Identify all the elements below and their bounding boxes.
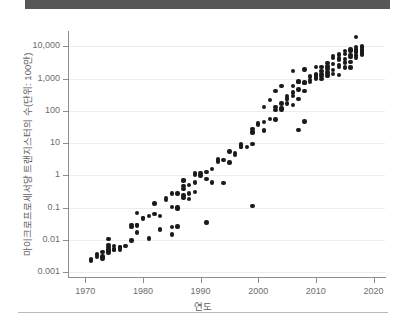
data-point [158, 214, 162, 218]
data-point [118, 248, 122, 252]
data-point [291, 69, 295, 73]
data-point [331, 62, 335, 66]
data-point [221, 181, 225, 185]
data-point [273, 117, 277, 121]
scatter-plot-area [68, 31, 385, 277]
data-point [164, 198, 168, 202]
y-axis-tick-mark [63, 240, 68, 241]
data-point [291, 84, 295, 88]
data-point [337, 65, 341, 69]
x-axis-tick-label: 2010 [296, 286, 336, 296]
data-point [147, 236, 151, 240]
data-point [302, 89, 306, 93]
data-point [239, 144, 243, 148]
data-point [273, 89, 277, 93]
data-point [296, 80, 300, 84]
data-point [354, 56, 358, 60]
data-point [296, 128, 300, 132]
data-point [337, 58, 341, 62]
x-axis-tick-mark [316, 278, 317, 283]
data-point [106, 250, 110, 254]
data-point [135, 223, 139, 227]
x-axis-tick-label: 2020 [354, 286, 394, 296]
x-axis-tick-mark [201, 278, 202, 283]
data-point [250, 204, 254, 208]
gridline [68, 272, 385, 273]
data-point [308, 74, 312, 78]
data-point [221, 158, 225, 162]
data-point [268, 98, 272, 102]
data-point [262, 105, 266, 109]
data-point [170, 225, 174, 229]
data-point [314, 76, 318, 80]
data-point [100, 256, 104, 260]
data-point [135, 230, 139, 234]
data-point [348, 60, 352, 64]
gridline [68, 111, 385, 112]
y-axis-tick-mark [63, 175, 68, 176]
data-point [354, 35, 358, 39]
gridline [68, 240, 385, 241]
data-point [170, 191, 174, 195]
y-axis-title: 마이크로프로세서당 트랜지스터의 수(단위: 100만) [22, 40, 33, 270]
data-point [360, 49, 364, 53]
data-point [227, 160, 231, 164]
data-point [106, 243, 110, 247]
data-point [302, 67, 306, 71]
data-point [343, 65, 347, 69]
x-axis-tick-mark [85, 278, 86, 283]
data-point [285, 101, 289, 105]
gridline [68, 143, 385, 144]
data-point [285, 96, 289, 100]
data-point [152, 201, 156, 205]
data-point [308, 80, 312, 84]
data-point [210, 180, 214, 184]
data-point [279, 84, 283, 88]
data-point [250, 130, 254, 134]
data-point [348, 47, 352, 51]
x-axis-tick-label: 1990 [181, 286, 221, 296]
data-point [187, 183, 191, 187]
data-point [250, 142, 254, 146]
data-point [302, 119, 306, 123]
y-axis-tick-mark [63, 272, 68, 273]
data-point [360, 44, 364, 48]
y-axis-line [68, 31, 69, 278]
data-point [181, 179, 185, 183]
data-point [348, 55, 352, 59]
y-axis-tick-mark [63, 143, 68, 144]
data-point [170, 232, 174, 236]
data-point [175, 191, 179, 195]
data-point [227, 149, 231, 153]
data-point [193, 190, 197, 194]
data-point [193, 180, 197, 184]
data-point [354, 49, 358, 53]
data-point [262, 128, 266, 132]
chart-figure: 0.0010.010.11101001,00010,000 1970198019… [0, 9, 406, 303]
data-point [187, 191, 191, 195]
data-point [245, 145, 249, 149]
y-axis-tick-mark [63, 79, 68, 80]
y-axis-tick-mark [63, 46, 68, 47]
data-point [337, 73, 341, 77]
data-point [348, 65, 352, 69]
data-point [325, 74, 329, 78]
data-point [181, 196, 185, 200]
data-point [268, 117, 272, 121]
data-point [95, 255, 99, 259]
data-point [135, 211, 139, 215]
data-point [314, 73, 318, 77]
data-point [319, 72, 323, 76]
x-axis-tick-label: 1980 [123, 286, 163, 296]
data-point [152, 212, 156, 216]
data-point [204, 170, 208, 174]
data-point [175, 224, 179, 228]
x-axis-title: 연도 [0, 301, 406, 312]
gridline [68, 79, 385, 80]
data-point [296, 97, 300, 101]
data-point [129, 238, 133, 242]
data-point [210, 167, 214, 171]
top-banner-bar [25, 0, 390, 9]
data-point [106, 237, 110, 241]
data-point [262, 120, 266, 124]
